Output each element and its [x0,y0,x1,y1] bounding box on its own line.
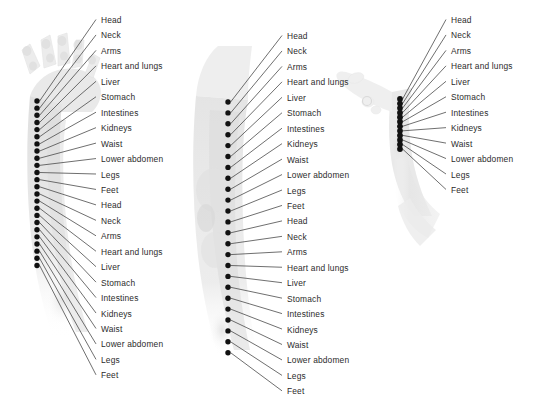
reflex-point-marker[interactable] [225,328,230,333]
zone-label: Liver [101,77,120,87]
reflex-point-marker[interactable] [225,99,230,104]
zone-label: Head [451,15,472,25]
zone-label: Kidneys [451,123,482,133]
reflex-point-marker[interactable] [34,134,39,139]
reflex-point-marker[interactable] [225,121,230,126]
zone-label: Kidneys [287,139,318,149]
reflex-point-marker[interactable] [225,208,230,213]
reflex-point-marker[interactable] [225,306,230,311]
reflex-point-marker[interactable] [225,132,230,137]
reflex-point-marker[interactable] [225,263,230,268]
reflex-point-marker[interactable] [225,219,230,224]
leader-line [231,331,282,360]
reflex-point-marker[interactable] [34,120,39,125]
zone-label: Heart and lungs [451,61,513,71]
leader-line [403,66,446,113]
zone-label: Intestines [287,309,325,319]
leader-line [403,128,446,131]
leader-line [40,143,96,158]
leader-line [40,35,96,108]
leader-line [231,144,282,179]
reflex-point-marker[interactable] [34,156,39,161]
reflex-point-marker[interactable] [34,191,39,196]
leader-line [40,159,96,166]
zone-label: Kidneys [101,309,132,319]
zone-label: Legs [101,170,120,180]
zone-label: Heart and lungs [101,61,163,71]
reflex-point-marker[interactable] [34,177,39,182]
reflex-point-marker[interactable] [225,339,230,344]
reflex-point-marker[interactable] [34,113,39,118]
zone-label: Feet [101,185,118,195]
forearm-and-hand-xray-annotations [34,20,96,375]
zone-label: Feet [101,370,118,380]
reflex-point-marker[interactable] [225,176,230,181]
zone-label: Intestines [287,124,325,134]
leader-line [231,287,282,298]
reflex-point-marker[interactable] [225,317,230,322]
reflex-point-marker[interactable] [225,230,230,235]
reflex-point-marker[interactable] [397,146,403,152]
leader-line [231,51,282,113]
zone-label: Waist [101,139,122,149]
zone-label: Intestines [451,108,489,118]
leader-line [40,201,96,236]
leader-line [403,112,446,126]
reflex-point-marker[interactable] [225,252,230,257]
reflex-point-marker[interactable] [34,170,39,175]
leader-line [40,187,96,205]
zone-label: Neck [101,216,121,226]
leader-line [231,128,282,167]
leader-line [231,266,282,268]
reflex-point-marker[interactable] [225,110,230,115]
reflex-point-marker[interactable] [225,350,230,355]
zone-label: Neck [287,232,307,242]
zone-label: Arms [287,62,307,72]
zone-label: Liver [101,262,120,272]
zone-label: Legs [287,371,306,381]
reflex-point-marker[interactable] [225,241,230,246]
zone-label: Legs [287,186,306,196]
reflex-point-marker[interactable] [225,274,230,279]
reflex-point-marker[interactable] [225,285,230,290]
leader-line [40,194,96,220]
reflex-point-marker[interactable] [34,213,39,218]
reflex-point-marker[interactable] [34,198,39,203]
reflex-point-marker[interactable] [34,127,39,132]
zone-label: Intestines [101,108,139,118]
reflex-point-marker[interactable] [34,241,39,246]
reflex-point-marker[interactable] [225,187,230,192]
reflex-point-marker[interactable] [34,256,39,261]
reflex-point-marker[interactable] [225,197,230,202]
reflex-point-marker[interactable] [34,206,39,211]
zone-label: Stomach [101,278,135,288]
zone-label: Stomach [287,108,321,118]
leader-line [403,35,446,104]
zone-label: Kidneys [101,123,132,133]
leader-line [231,309,282,329]
reflex-point-marker[interactable] [34,184,39,189]
reflex-point-marker[interactable] [225,296,230,301]
reflex-point-marker[interactable] [34,220,39,225]
reflex-point-marker[interactable] [34,148,39,153]
zone-label: Stomach [451,92,485,102]
leader-line [40,251,96,344]
reflex-point-marker[interactable] [34,141,39,146]
reflex-point-marker[interactable] [34,263,39,268]
reflex-point-marker[interactable] [34,248,39,253]
zone-label: Head [101,200,122,210]
reflex-point-marker[interactable] [34,234,39,239]
reflex-point-marker[interactable] [34,98,39,103]
leader-line [40,66,96,123]
zone-label: Stomach [287,294,321,304]
reflex-point-marker[interactable] [34,163,39,168]
leader-line [40,265,96,374]
zone-label: Legs [451,170,470,180]
reflex-point-marker[interactable] [34,227,39,232]
zone-label: Neck [287,46,307,56]
zone-label: Lower abdomen [101,339,163,349]
reflex-point-marker[interactable] [225,165,230,170]
reflex-point-marker[interactable] [225,154,230,159]
reflex-point-marker[interactable] [225,143,230,148]
reflex-point-marker[interactable] [34,105,39,110]
